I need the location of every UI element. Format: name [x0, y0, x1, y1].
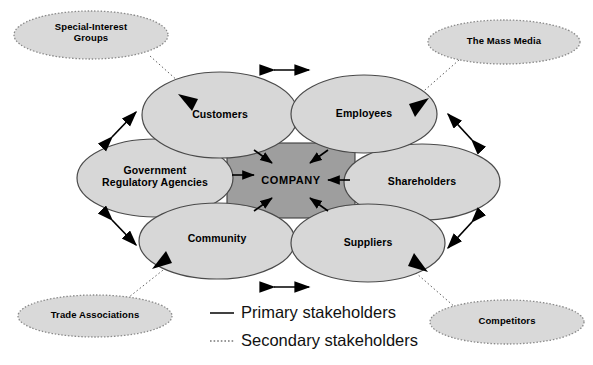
arrow-shareholders-suppliers [448, 222, 472, 248]
arrow-shareholders-employees [448, 114, 472, 140]
legend-label-secondary: Secondary stakeholders [241, 331, 418, 350]
arrow-gov-community [112, 220, 136, 245]
ellipse-suppliers[interactable] [291, 204, 445, 282]
stakeholder-diagram-canvas: Customers Employees Government Regulator… [0, 0, 593, 365]
ellipse-customers[interactable] [142, 72, 298, 158]
legend-label-primary: Primary stakeholders [241, 303, 396, 322]
ellipse-community[interactable] [139, 203, 295, 279]
legend-swatches [210, 313, 234, 341]
ellipse-the-mass-media[interactable] [428, 20, 580, 64]
ellipse-competitors[interactable] [430, 300, 584, 344]
ellipse-trade-associations[interactable] [18, 295, 172, 337]
ellipse-special-interest-groups[interactable] [14, 11, 168, 59]
arrow-gov-customers [112, 112, 136, 137]
